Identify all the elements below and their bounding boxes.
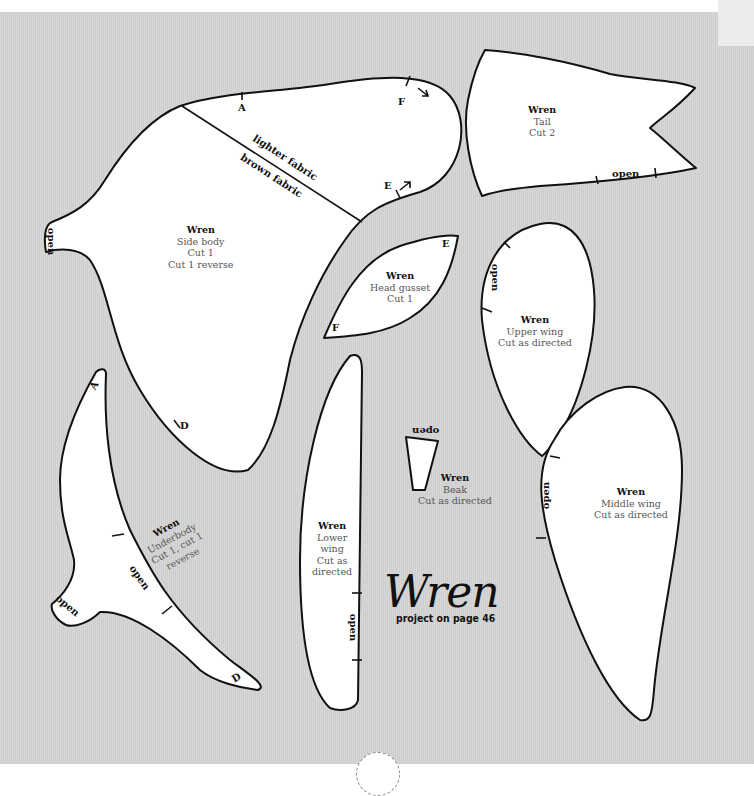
mark-a: A bbox=[238, 102, 246, 113]
dashed-circle bbox=[356, 752, 400, 796]
side-body-label: Wren Side body Cut 1 Cut 1 reverse bbox=[168, 224, 233, 270]
lower-wing-label: Wren Lower wing Cut as directed bbox=[312, 520, 352, 578]
open-mark: open bbox=[490, 264, 501, 291]
middle-wing-piece bbox=[541, 387, 682, 721]
open-mark: open bbox=[348, 614, 359, 641]
mark-d: D bbox=[180, 420, 189, 431]
open-mark: open bbox=[412, 426, 439, 437]
open-mark: open bbox=[540, 482, 551, 509]
beak-label: Wren Beak Cut as directed bbox=[418, 472, 492, 507]
project-page-reference: project on page 46 bbox=[396, 612, 495, 625]
mark-e: E bbox=[442, 238, 450, 249]
pattern-title: Wren bbox=[384, 566, 499, 617]
mark-f: F bbox=[332, 322, 339, 333]
upper-wing-label: Wren Upper wing Cut as directed bbox=[498, 314, 572, 349]
open-mark: open bbox=[46, 228, 57, 255]
mark-e: E bbox=[384, 180, 392, 191]
open-mark: open bbox=[612, 168, 639, 179]
tail-label: Wren Tail Cut 2 bbox=[528, 104, 556, 139]
tail-piece bbox=[466, 50, 696, 196]
mark-f: F bbox=[398, 96, 405, 107]
middle-wing-label: Wren Middle wing Cut as directed bbox=[594, 486, 668, 521]
head-gusset-label: Wren Head gusset Cut 1 bbox=[370, 270, 430, 305]
